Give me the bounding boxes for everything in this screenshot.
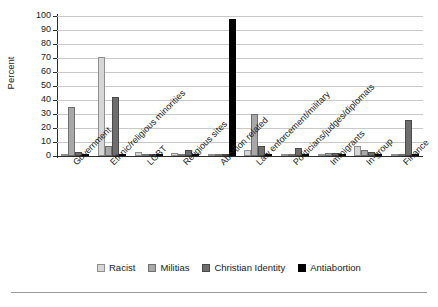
y-axis-tick-label: 0 xyxy=(46,151,51,160)
legend-item[interactable]: Militias xyxy=(148,262,189,273)
y-axis-tick-mark xyxy=(53,86,57,87)
y-axis-tick-mark xyxy=(53,128,57,129)
bar[interactable] xyxy=(354,146,361,156)
y-axis-tick-label: 100 xyxy=(36,11,51,20)
y-axis-tick-label: 80 xyxy=(41,39,51,48)
bar[interactable] xyxy=(244,150,251,156)
y-axis-tick-mark xyxy=(53,44,57,45)
bar[interactable] xyxy=(229,19,236,156)
bar-group xyxy=(61,16,89,156)
bar-group xyxy=(171,16,199,156)
legend-label: Racist xyxy=(109,262,135,273)
y-axis-tick-mark xyxy=(53,72,57,73)
y-axis-tick-mark xyxy=(53,30,57,31)
y-axis-tick-mark xyxy=(53,142,57,143)
y-axis-tick-labels: 0102030405060708090100 xyxy=(20,0,51,307)
bar[interactable] xyxy=(391,154,398,156)
bottom-divider-rule xyxy=(11,292,427,293)
legend-swatch-icon xyxy=(202,264,210,272)
bar[interactable] xyxy=(68,107,75,156)
y-axis-tick-mark xyxy=(53,114,57,115)
y-axis-tick-label: 50 xyxy=(41,81,51,90)
legend-item[interactable]: Antiabortion xyxy=(298,262,361,273)
bar[interactable] xyxy=(171,153,178,156)
y-axis-title: Percent xyxy=(6,43,16,103)
legend-label: Christian Identity xyxy=(214,262,285,273)
legend-item[interactable]: Racist xyxy=(97,262,135,273)
bar-chart-figure: Percent 0102030405060708090100 Governmen… xyxy=(0,0,438,307)
legend-label: Militias xyxy=(160,262,189,273)
y-axis-tick-mark xyxy=(53,58,57,59)
bar[interactable] xyxy=(325,153,332,157)
y-axis-tick-label: 10 xyxy=(41,137,51,146)
bar[interactable] xyxy=(112,97,119,156)
y-axis-tick-label: 30 xyxy=(41,109,51,118)
y-axis-tick-label: 40 xyxy=(41,95,51,104)
y-axis-tick-label: 70 xyxy=(41,53,51,62)
y-axis-tick-mark xyxy=(53,156,57,157)
bar-group xyxy=(391,16,419,156)
bar[interactable] xyxy=(318,154,325,156)
legend-item[interactable]: Christian Identity xyxy=(202,262,285,273)
bar[interactable] xyxy=(135,152,142,156)
legend-swatch-icon xyxy=(298,264,306,272)
y-axis-tick-mark xyxy=(53,16,57,17)
legend-swatch-icon xyxy=(97,264,105,272)
bar[interactable] xyxy=(61,154,68,156)
chart-legend: RacistMilitiasChristian IdentityAntiabor… xyxy=(97,262,361,273)
bar[interactable] xyxy=(208,154,215,156)
legend-swatch-icon xyxy=(148,264,156,272)
bar[interactable] xyxy=(281,154,288,156)
legend-label: Antiabortion xyxy=(310,262,361,273)
y-axis-tick-label: 90 xyxy=(41,25,51,34)
bar[interactable] xyxy=(105,146,112,156)
y-axis-tick-mark xyxy=(53,100,57,101)
y-axis-tick-label: 20 xyxy=(41,123,51,132)
y-axis-tick-label: 60 xyxy=(41,67,51,76)
